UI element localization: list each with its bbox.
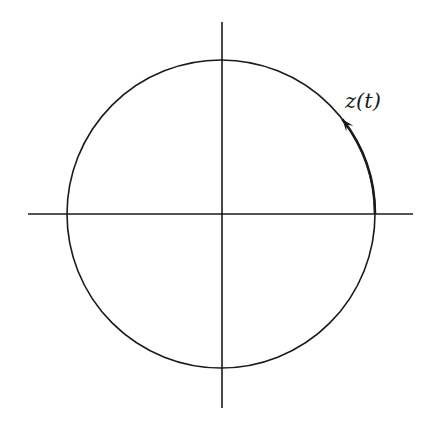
unit-circle-diagram: z(t)	[0, 0, 430, 425]
z-t-path-arc	[342, 119, 375, 214]
z-t-label: z(t)	[344, 89, 381, 113]
